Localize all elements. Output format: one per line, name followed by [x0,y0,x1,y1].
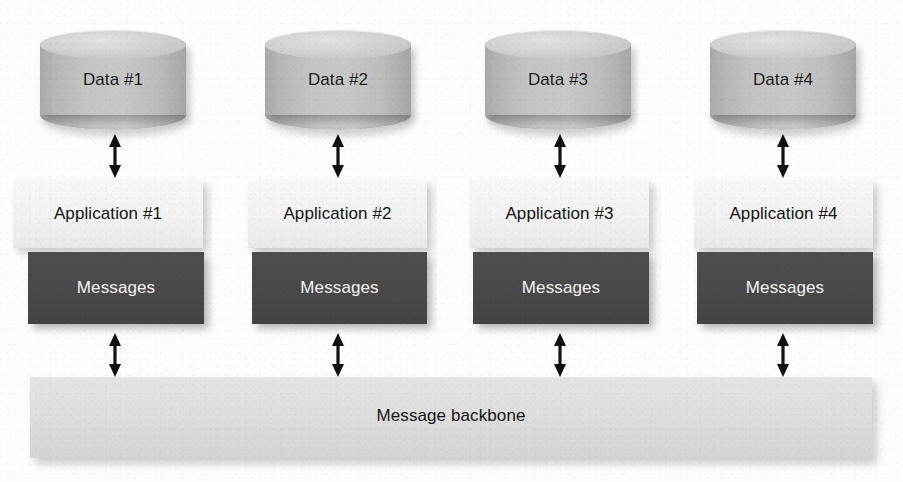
double-arrow-data-to-application-3 [549,133,571,179]
application-label-1: Application #1 [54,204,162,224]
application-box-4: Application #4 [694,180,873,248]
application-box-1: Application #1 [13,180,203,248]
database-cylinder-1: Data #1 [40,30,186,130]
messages-label-1: Messages [77,278,155,298]
database-cylinder-3: Data #3 [485,30,631,130]
cylinder-top-ellipse [710,30,856,59]
cylinder-top-ellipse [40,30,186,59]
messages-label-4: Messages [746,278,824,298]
cylinder-top-ellipse [485,30,631,59]
messages-box-1: Messages [28,252,204,324]
double-arrow-messages-to-backbone-3 [549,332,571,378]
message-backbone-label: Message backbone [376,406,525,426]
messages-label-3: Messages [522,278,600,298]
messages-box-3: Messages [473,252,649,324]
message-backbone-bar: Message backbone [30,377,872,458]
messages-box-4: Messages [697,252,873,324]
application-box-2: Application #2 [248,180,427,248]
double-arrow-messages-to-backbone-1 [104,332,126,378]
double-arrow-messages-to-backbone-4 [772,332,794,378]
application-label-2: Application #2 [283,204,391,224]
cylinder-top-ellipse [265,30,411,59]
database-cylinder-4: Data #4 [710,30,856,130]
double-arrow-data-to-application-1 [104,133,126,179]
double-arrow-data-to-application-2 [327,133,349,179]
message-backbone-diagram: Data #1 Application #1 Messages Data #2 [0,0,903,482]
messages-label-2: Messages [300,278,378,298]
double-arrow-data-to-application-4 [772,133,794,179]
database-label-1: Data #1 [40,70,186,90]
database-label-3: Data #3 [485,70,631,90]
double-arrow-messages-to-backbone-2 [327,332,349,378]
application-box-3: Application #3 [470,180,649,248]
application-label-4: Application #4 [729,204,837,224]
database-cylinder-2: Data #2 [265,30,411,130]
database-label-2: Data #2 [265,70,411,90]
database-label-4: Data #4 [710,70,856,90]
application-label-3: Application #3 [505,204,613,224]
messages-box-2: Messages [252,252,427,324]
